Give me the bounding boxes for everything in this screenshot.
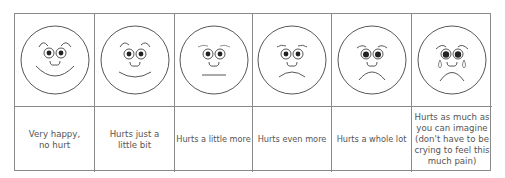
face-cell-3	[253, 14, 332, 107]
neutral-face-icon	[177, 20, 251, 100]
smiling-face-icon	[98, 20, 172, 100]
face-cell-1	[95, 14, 175, 107]
pain-label: Hurts a whole lot	[337, 134, 407, 145]
slight-frown-face-icon	[255, 20, 329, 100]
pain-label: Very happy, no hurt	[17, 129, 92, 151]
label-cell-0: Very happy, no hurt	[15, 107, 95, 172]
frowning-face-icon	[335, 20, 409, 100]
label-cell-3: Hurts even more	[253, 107, 332, 172]
pain-label: Hurts even more	[258, 134, 327, 145]
pain-label: Hurts as much as you can imagine (don't …	[414, 112, 490, 167]
label-cell-1: Hurts just a little bit	[95, 107, 175, 172]
label-cell-2: Hurts a little more	[175, 107, 253, 172]
face-cell-0	[15, 14, 95, 107]
label-cell-5: Hurts as much as you can imagine (don't …	[412, 107, 492, 172]
crying-face-icon	[415, 20, 489, 100]
pain-label: Hurts just a little bit	[97, 129, 172, 151]
face-cell-2	[175, 14, 253, 107]
pain-label: Hurts a little more	[176, 134, 251, 145]
face-cell-5	[412, 14, 492, 107]
pain-scale-table: Very happy, no hurt Hurts just a little …	[14, 13, 491, 171]
face-cell-4	[332, 14, 412, 107]
label-cell-4: Hurts a whole lot	[332, 107, 412, 172]
very-happy-face-icon	[18, 20, 92, 100]
